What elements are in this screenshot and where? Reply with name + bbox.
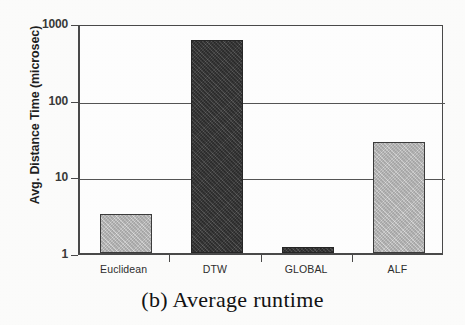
chart-plot-area (78, 25, 443, 255)
x-category-label-dtw: DTW (169, 263, 260, 275)
bar-alf (373, 142, 425, 253)
figure-caption: (b) Average runtime (0, 287, 465, 313)
x-tick-mark-2 (261, 255, 262, 262)
x-category-label-alf: ALF (352, 263, 443, 275)
x-tick-mark-1 (169, 255, 170, 262)
bar-euclidean (100, 214, 152, 253)
y-tick-mark-1 (71, 255, 78, 256)
figure-average-runtime: Avg. Distance Time (microsec) 1000100101… (0, 0, 465, 325)
gridline-100 (80, 103, 445, 104)
bar-dtw (191, 40, 243, 253)
y-axis-title: Avg. Distance Time (microsec) (28, 0, 42, 235)
x-tick-mark-3 (352, 255, 353, 262)
y-tick-mark-10 (71, 178, 78, 179)
bar-global (282, 247, 334, 253)
y-tick-label-1000: 1000 (16, 17, 68, 31)
x-category-label-euclidean: Euclidean (78, 263, 169, 275)
y-tick-label-100: 100 (16, 94, 68, 108)
x-category-label-global: GLOBAL (261, 263, 352, 275)
y-tick-mark-1000 (71, 25, 78, 26)
y-tick-mark-100 (71, 102, 78, 103)
y-tick-label-1: 1 (16, 247, 68, 261)
y-tick-label-10: 10 (16, 170, 68, 184)
